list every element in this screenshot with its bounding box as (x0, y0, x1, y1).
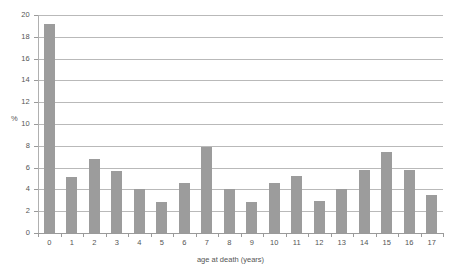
y-axis-label: 14 (6, 75, 30, 84)
y-axis-label: 4 (6, 184, 30, 193)
y-tick-mark (34, 168, 38, 169)
x-tick-mark (443, 234, 444, 237)
x-tick-mark (151, 234, 152, 237)
y-axis-label: 6 (6, 163, 30, 172)
bar (246, 202, 257, 233)
y-axis-label: 2 (6, 206, 30, 215)
x-tick-mark (128, 234, 129, 237)
bar (359, 170, 370, 233)
y-axis-label: 18 (6, 32, 30, 41)
plot-area (38, 15, 443, 233)
y-axis-label: 10 (6, 119, 30, 128)
bar (179, 183, 190, 233)
y-axis-label: 16 (6, 54, 30, 63)
x-tick-mark (196, 234, 197, 237)
x-tick-mark (421, 234, 422, 237)
x-tick-mark (173, 234, 174, 237)
bar (66, 177, 77, 233)
y-tick-mark (34, 211, 38, 212)
y-axis-label: 0 (6, 228, 30, 237)
x-tick-mark (241, 234, 242, 237)
bar (426, 195, 437, 233)
x-tick-mark (38, 234, 39, 237)
bar (269, 183, 280, 233)
y-tick-mark (34, 189, 38, 190)
y-tick-mark (34, 124, 38, 125)
y-tick-mark (34, 102, 38, 103)
bar-series (38, 15, 443, 233)
x-tick-mark (286, 234, 287, 237)
x-tick-mark (106, 234, 107, 237)
x-axis-label: 17 (417, 238, 447, 247)
y-tick-mark (34, 15, 38, 16)
bar (201, 147, 212, 233)
y-axis-title: % (11, 114, 18, 123)
x-tick-mark (398, 234, 399, 237)
y-axis-label: 12 (6, 97, 30, 106)
x-tick-mark (353, 234, 354, 237)
bar-chart: 02468101214161820 % 01234567891011121314… (0, 0, 461, 279)
x-tick-mark (83, 234, 84, 237)
bar (381, 152, 392, 233)
x-axis-title: age at death (years) (0, 255, 461, 264)
bar (336, 189, 347, 233)
y-tick-mark (34, 59, 38, 60)
bar (111, 171, 122, 233)
bar (44, 24, 55, 233)
x-tick-mark (376, 234, 377, 237)
y-tick-mark (34, 146, 38, 147)
bar (291, 176, 302, 233)
y-axis-line (38, 15, 39, 234)
x-tick-mark (61, 234, 62, 237)
x-tick-mark (331, 234, 332, 237)
y-axis-label: 8 (6, 141, 30, 150)
y-tick-mark (34, 37, 38, 38)
bar (156, 202, 167, 233)
bar (224, 189, 235, 233)
bar (134, 189, 145, 233)
bar (89, 159, 100, 233)
bar (404, 170, 415, 233)
bar (314, 201, 325, 233)
y-axis-label: 20 (6, 10, 30, 19)
x-tick-mark (308, 234, 309, 237)
y-tick-mark (34, 80, 38, 81)
x-tick-mark (263, 234, 264, 237)
x-tick-mark (218, 234, 219, 237)
